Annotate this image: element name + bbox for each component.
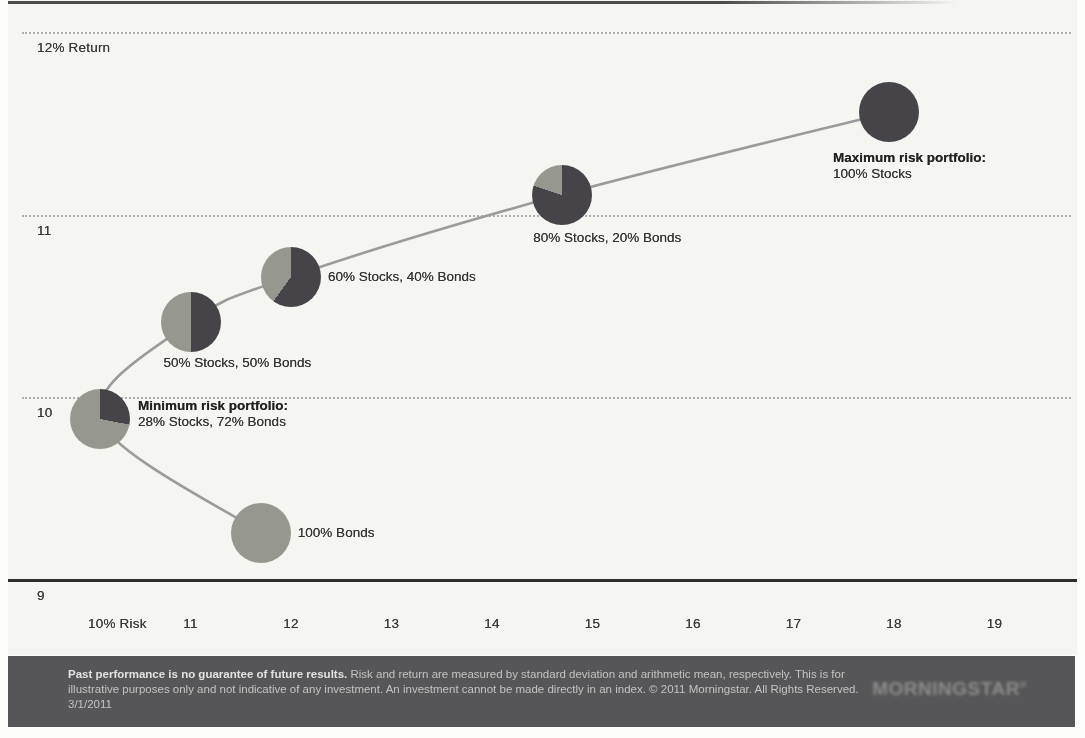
- y-tick-label-9: 9: [37, 588, 45, 603]
- x-tick-label-13: 13: [384, 616, 399, 631]
- pie-mix-50-50: [161, 292, 221, 352]
- registered-trademark-icon: ®: [1020, 680, 1027, 690]
- footer-disclaimer-bar: Past performance is no guarantee of futu…: [8, 656, 1075, 727]
- pie-bonds-100: [231, 503, 291, 563]
- gridline-12: [22, 32, 1071, 34]
- label-max-risk: Maximum risk portfolio:100% Stocks: [833, 150, 986, 181]
- x-tick-label-11: 11: [183, 616, 197, 631]
- x-tick-label-16: 16: [685, 616, 700, 631]
- x-tick-label-15: 15: [585, 616, 600, 631]
- label-min-risk: Minimum risk portfolio:28% Stocks, 72% B…: [138, 398, 288, 429]
- y-tick-label-12: 12% Return: [37, 40, 110, 55]
- label-line: 60% Stocks, 40% Bonds: [328, 269, 476, 285]
- disclaimer-bold-text: Past performance is no guarantee of futu…: [68, 668, 347, 680]
- x-axis-line: [8, 579, 1077, 582]
- x-tick-label-19: 19: [987, 616, 1002, 631]
- pie-mix-60-40: [261, 247, 321, 307]
- x-tick-label-12: 12: [283, 616, 298, 631]
- label-mix-50-50: 50% Stocks, 50% Bonds: [164, 355, 312, 371]
- label-mix-60-40: 60% Stocks, 40% Bonds: [328, 269, 476, 285]
- label-line: 100% Bonds: [298, 525, 375, 541]
- label-bonds-100: 100% Bonds: [298, 525, 375, 541]
- morningstar-logo: MORNINGSTAR®: [872, 678, 1027, 700]
- morningstar-risk-return-chart: 12% Return1110910% Risk11121314151617181…: [0, 0, 1085, 738]
- disclaimer-text: Past performance is no guarantee of futu…: [68, 667, 876, 712]
- x-tick-label-18: 18: [886, 616, 901, 631]
- label-mix-80-20: 80% Stocks, 20% Bonds: [533, 230, 681, 246]
- label-line: 80% Stocks, 20% Bonds: [533, 230, 681, 246]
- y-tick-label-10: 10: [37, 405, 52, 420]
- x-tick-label-17: 17: [786, 616, 801, 631]
- pie-mix-80-20: [532, 165, 592, 225]
- label-line: 100% Stocks: [833, 166, 986, 182]
- pie-min-risk: [70, 389, 130, 449]
- label-line: Minimum risk portfolio:: [138, 398, 288, 414]
- chart-top-border: [8, 1, 958, 4]
- label-line: Maximum risk portfolio:: [833, 150, 986, 166]
- label-line: 28% Stocks, 72% Bonds: [138, 414, 288, 430]
- label-line: 50% Stocks, 50% Bonds: [164, 355, 312, 371]
- x-tick-label-14: 14: [484, 616, 499, 631]
- x-tick-label-10: 10% Risk: [88, 616, 147, 631]
- pie-max-risk: [859, 82, 919, 142]
- chart-area: 12% Return1110910% Risk11121314151617181…: [8, 0, 1077, 655]
- y-tick-label-11: 11: [37, 223, 51, 238]
